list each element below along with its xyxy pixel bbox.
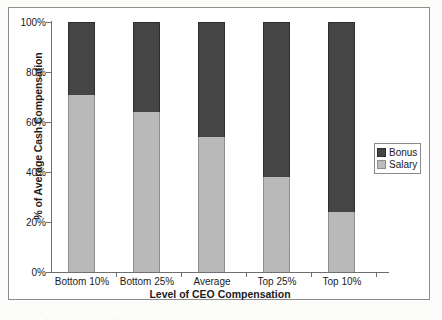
bar-segment-salary <box>68 95 95 273</box>
bar-average <box>198 22 225 272</box>
legend-swatch-bonus-icon <box>377 148 386 157</box>
bar-bottom-10 <box>68 22 95 272</box>
legend-label-salary: Salary <box>389 159 417 170</box>
bar-segment-bonus <box>198 22 225 137</box>
x-tick-label-top-10: Top 10% <box>297 276 387 287</box>
y-tick-label-100: 100% <box>12 17 46 28</box>
bar-top-25 <box>263 22 290 272</box>
bar-segment-salary <box>198 137 225 272</box>
y-tick-label-20: 20% <box>12 217 46 228</box>
plot-area <box>51 22 373 272</box>
bar-segment-salary <box>263 177 290 272</box>
legend-item-bonus: Bonus <box>377 146 417 158</box>
bar-top-10 <box>328 22 355 272</box>
x-axis-title: Level of CEO Compensation <box>51 288 389 300</box>
legend-swatch-salary-icon <box>377 160 386 169</box>
y-tick-label-80: 80% <box>12 67 46 78</box>
scanned-page: % of Average Cash Compensation 100% 80% … <box>0 0 442 320</box>
x-axis-line <box>51 272 389 273</box>
legend-item-salary: Salary <box>377 158 417 170</box>
y-tick-label-60: 60% <box>12 117 46 128</box>
bar-segment-salary <box>133 112 160 272</box>
legend-label-bonus: Bonus <box>389 147 417 158</box>
bar-segment-bonus <box>133 22 160 112</box>
bar-segment-bonus <box>328 22 355 212</box>
bar-segment-bonus <box>263 22 290 177</box>
y-tick-label-40: 40% <box>12 167 46 178</box>
y-axis-ticks: 100% 80% 60% 40% 20% 0% <box>8 0 46 320</box>
chart-legend: Bonus Salary <box>374 143 421 174</box>
bar-bottom-25 <box>133 22 160 272</box>
bar-segment-bonus <box>68 22 95 95</box>
bar-segment-salary <box>328 212 355 272</box>
